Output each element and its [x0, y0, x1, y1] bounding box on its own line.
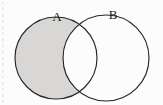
venn-diagram-figure: A B: [0, 0, 163, 105]
set-a-label: A: [52, 9, 62, 24]
left-edge-dotted-marks: [2, 1, 3, 103]
venn-diagram-canvas: A B: [0, 0, 163, 105]
set-b-label: B: [109, 7, 118, 22]
